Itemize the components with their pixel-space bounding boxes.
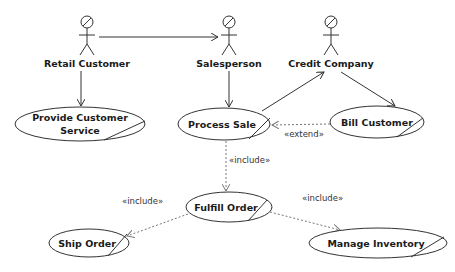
use-case-bill-customer[interactable]: Bill Customer xyxy=(330,106,424,138)
actor-retail-customer[interactable]: Retail Customer xyxy=(44,16,130,69)
extend-bill-to-process-sale xyxy=(272,124,330,125)
actor-salesperson[interactable]: Salesperson xyxy=(196,16,262,69)
stick-figure-icon xyxy=(221,16,237,55)
include-fulfill-to-ship xyxy=(127,214,188,236)
use-case-label: Manage Inventory xyxy=(327,238,425,249)
stick-figure-icon xyxy=(79,16,95,55)
actor-label: Credit Company xyxy=(288,58,374,69)
association-credit-to-bill xyxy=(341,72,395,106)
use-case-label: Service xyxy=(60,125,100,136)
extend-label: «extend» xyxy=(284,129,324,139)
use-case-fulfill-order[interactable]: Fulfill Order xyxy=(186,192,272,222)
use-case-manage-inventory[interactable]: Manage Inventory xyxy=(309,228,447,258)
use-case-label: Process Sale xyxy=(188,119,256,130)
use-case-label: Provide Customer xyxy=(32,112,128,123)
actor-credit-company[interactable]: Credit Company xyxy=(288,16,374,69)
actor-label: Salesperson xyxy=(196,58,262,69)
use-case-ship-order[interactable]: Ship Order xyxy=(49,229,129,257)
use-case-diagram: Retail Customer Salesperson Credit Compa… xyxy=(0,0,455,272)
association-process-sale-to-credit xyxy=(262,72,324,111)
use-case-provide-customer-service[interactable]: Provide Customer Service xyxy=(15,107,145,141)
include-label: «include» xyxy=(302,193,343,203)
include-label: «include» xyxy=(229,155,270,165)
use-case-label: Fulfill Order xyxy=(194,202,258,213)
use-case-process-sale[interactable]: Process Sale xyxy=(178,108,270,140)
include-label: «include» xyxy=(122,196,163,206)
use-case-label: Ship Order xyxy=(58,238,116,249)
include-fulfill-to-inventory xyxy=(270,212,340,230)
actor-label: Retail Customer xyxy=(44,58,130,69)
use-case-label: Bill Customer xyxy=(341,117,413,128)
stick-figure-icon xyxy=(323,16,339,55)
